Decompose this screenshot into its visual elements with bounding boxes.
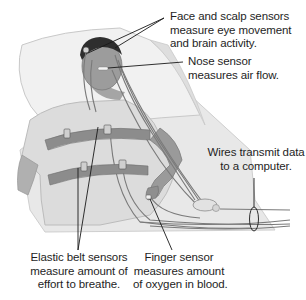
nose-sensor — [98, 67, 108, 70]
callout-face-scalp-sensors: Face and scalp sensors measure eye movem… — [170, 10, 291, 51]
callout-elastic-belt-sensors: Elastic belt sensors measure amount of e… — [28, 251, 130, 292]
callout-line: measures amount — [133, 265, 225, 279]
callout-line: Face and scalp sensors — [170, 10, 291, 24]
finger-sensor — [146, 195, 151, 199]
callout-line: measure eye movement — [170, 24, 291, 38]
sleep-study-diagram: Face and scalp sensors measure eye movem… — [0, 0, 306, 300]
callout-finger-sensor: Finger sensor measures amount of oxygen … — [133, 251, 225, 292]
chest-belt-sensor — [104, 125, 111, 134]
chest-belt-sensor — [64, 129, 70, 138]
callout-line: of oxygen in blood. — [133, 278, 225, 292]
callout-line: effort to breathe. — [28, 278, 130, 292]
callout-line: measure amount of — [28, 265, 130, 279]
abdomen-belt-sensor — [119, 160, 126, 169]
callout-line: measures air flow. — [188, 69, 279, 83]
callout-line: to a computer. — [206, 160, 306, 174]
callout-line: Finger sensor — [133, 251, 225, 265]
callout-line: Wires transmit data — [206, 146, 306, 160]
callout-wires: Wires transmit data to a computer. — [206, 146, 306, 173]
callout-line: Nose sensor — [188, 55, 279, 69]
callout-line: and brain activity. — [170, 37, 291, 51]
callout-line: Elastic belt sensors — [28, 251, 130, 265]
abdomen-belt-sensor — [81, 162, 87, 171]
callout-nose-sensor: Nose sensor measures air flow. — [188, 55, 279, 82]
